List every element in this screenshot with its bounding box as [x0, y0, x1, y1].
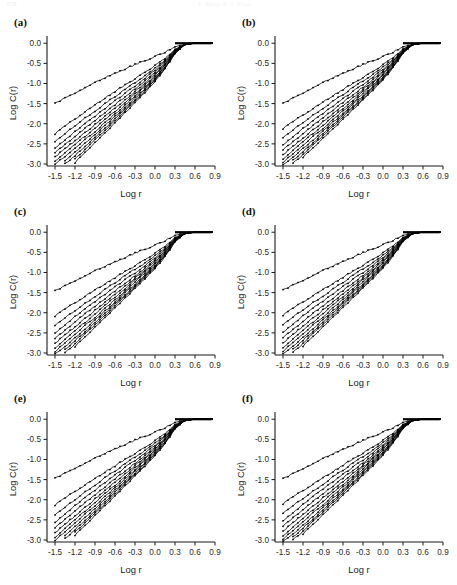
data-marker: [79, 495, 81, 497]
data-marker: [297, 470, 299, 472]
plateau-band: [403, 231, 440, 233]
data-marker: [114, 489, 116, 491]
data-marker: [337, 309, 339, 311]
data-marker: [322, 108, 324, 110]
data-marker: [104, 472, 106, 474]
data-marker: [362, 475, 364, 477]
data-marker: [282, 539, 284, 541]
data-marker: [357, 476, 359, 478]
data-marker: [322, 317, 324, 319]
data-marker: [74, 337, 76, 339]
y-tick-label: -1.0: [255, 79, 270, 88]
data-marker: [342, 298, 344, 300]
data-marker: [362, 453, 364, 455]
data-marker: [347, 482, 349, 484]
data-marker: [159, 249, 161, 251]
data-marker: [352, 270, 354, 272]
data-marker: [332, 304, 334, 306]
data-marker: [139, 453, 141, 455]
data-marker: [367, 85, 369, 87]
data-marker: [59, 129, 61, 131]
data-marker: [297, 152, 299, 154]
data-marker: [104, 499, 106, 501]
data-marker: [317, 304, 319, 306]
data-marker: [317, 514, 319, 516]
data-marker: [302, 333, 304, 335]
x-axis-title: Log r: [120, 377, 141, 388]
data-marker: [54, 156, 56, 158]
data-marker: [84, 520, 86, 522]
data-marker: [337, 477, 339, 479]
data-marker: [124, 89, 126, 91]
data-marker: [327, 305, 329, 307]
data-marker: [352, 285, 354, 287]
data-marker: [84, 506, 86, 508]
data-marker: [54, 290, 56, 292]
data-marker: [377, 256, 379, 258]
y-tick-label: -1.0: [27, 79, 42, 88]
data-marker: [119, 273, 121, 275]
series-line: [283, 232, 440, 348]
data-marker: [332, 288, 334, 290]
data-marker: [352, 475, 354, 477]
data-marker: [387, 74, 389, 76]
data-marker: [84, 146, 86, 148]
data-marker: [392, 255, 394, 256]
data-marker: [322, 128, 324, 130]
data-marker: [79, 127, 81, 129]
data-marker: [362, 63, 364, 65]
x-axis-title: Log r: [348, 188, 369, 199]
data-marker: [347, 104, 349, 106]
data-marker: [357, 466, 359, 468]
data-marker: [352, 289, 354, 291]
data-marker: [149, 264, 151, 266]
data-marker: [59, 476, 61, 478]
data-marker: [154, 70, 156, 72]
y-tick-label: -1.5: [27, 100, 42, 109]
data-marker: [292, 505, 294, 507]
series-line: [283, 232, 440, 332]
data-marker: [94, 326, 96, 328]
data-marker: [282, 540, 284, 542]
data-marker: [317, 132, 319, 134]
data-marker: [342, 117, 344, 119]
data-marker: [59, 312, 61, 314]
y-tick-label: -2.0: [255, 496, 270, 505]
y-tick-label: 0.0: [30, 415, 42, 424]
data-marker: [322, 305, 324, 307]
data-marker: [387, 262, 389, 264]
data-marker: [99, 494, 101, 496]
data-marker: [114, 111, 116, 113]
data-marker: [134, 252, 136, 254]
data-marker: [129, 459, 131, 461]
data-marker: [362, 77, 364, 79]
data-marker: [387, 53, 389, 55]
data-marker: [342, 301, 344, 303]
data-marker: [64, 513, 66, 515]
data-marker: [74, 118, 76, 120]
x-tick-label: -1.2: [296, 361, 311, 370]
data-marker: [347, 283, 349, 285]
data-marker: [332, 489, 334, 491]
data-marker: [357, 468, 359, 470]
data-marker: [104, 312, 106, 314]
data-marker: [69, 519, 71, 521]
data-marker: [282, 162, 284, 164]
data-marker: [54, 527, 56, 529]
data-marker: [79, 139, 81, 141]
data-marker: [74, 529, 76, 531]
data-marker: [94, 494, 96, 496]
data-marker: [139, 90, 141, 92]
data-marker: [134, 273, 136, 275]
data-marker: [332, 121, 334, 123]
data-marker: [109, 469, 111, 471]
data-marker: [134, 100, 136, 102]
data-marker: [59, 523, 61, 525]
data-marker: [139, 271, 141, 273]
data-marker: [114, 471, 116, 473]
data-marker: [347, 109, 349, 111]
data-marker: [342, 465, 344, 467]
data-marker: [312, 307, 314, 309]
data-marker: [367, 453, 369, 455]
data-marker: [104, 301, 106, 303]
